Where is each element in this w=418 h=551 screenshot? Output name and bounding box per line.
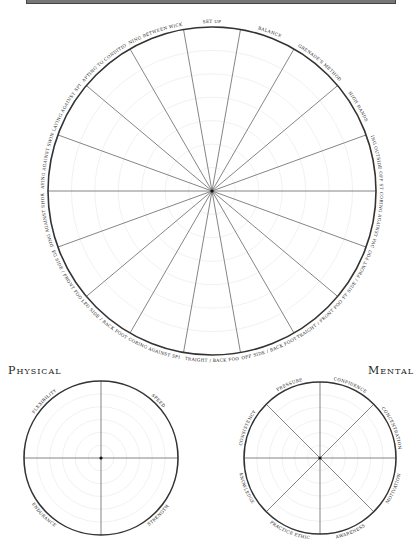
segment-label: PLAYING AGAINST SPIN [0, 0, 82, 132]
center-dot [99, 456, 102, 459]
center-dot [210, 189, 213, 192]
spoke [266, 404, 320, 458]
main-skills-wheel: SET UPBALANCEGRENADE'S METHODHIGH HANDSL… [0, 0, 384, 363]
segment-label: OFF SIDE / BACK FOOT [241, 336, 298, 361]
physical-title: Physical [8, 364, 62, 377]
spoke [212, 86, 338, 191]
spoke [266, 458, 320, 512]
segment-label: PRACTICE ETHIC [269, 520, 311, 541]
mental-title: Mental [368, 364, 414, 377]
segment-label: GRENADE'S METHOD [297, 43, 342, 82]
physical-wheel: SPEEDSTRENGTHENDURANCEFLEXIBILITY [18, 378, 184, 541]
segment-label: ADAPTING TO CONDITIONS [0, 0, 128, 84]
spoke [58, 135, 212, 191]
segment-label: STRENGTH [146, 503, 169, 526]
segment-label: LEG SIDE / FRONT FOOT [0, 0, 83, 301]
segment-label: ENDURANCE [31, 502, 57, 528]
spoke [212, 135, 366, 191]
spoke [212, 191, 366, 247]
spoke [58, 191, 212, 247]
segment-label: STRAIGHT / FRONT FOOT [0, 0, 344, 340]
spoke [86, 191, 212, 296]
spoke [212, 191, 338, 296]
segment-label: DEFENDING AGAINST SHORT BALL [0, 0, 54, 248]
wheel-diagram: SET UPBALANCEGRENADE'S METHODHIGH HANDSL… [0, 0, 418, 551]
spoke [86, 86, 212, 191]
segment-label: CONCENTRATION [381, 406, 403, 450]
segment-label: CONSISTENCY [238, 409, 257, 446]
mental-wheel: CONFIDENCECONCENTRATIONMOTIVATIONAWARENE… [238, 376, 403, 540]
center-dot [318, 456, 321, 459]
spoke [320, 404, 374, 458]
segment-label: PLAYING AGAINST SWING [0, 0, 55, 190]
segment-label: LEG SIDE / BACK FOOT [80, 298, 128, 339]
spoke [320, 458, 374, 512]
segment-label: FLEXIBILITY [31, 388, 58, 415]
segment-label: BALANCE [258, 26, 283, 39]
segment-label: CONFIDENCE [333, 376, 368, 394]
segment-label: SET UP [202, 19, 221, 24]
segment-label: RUNNING BETWEEN WICKETS [0, 0, 183, 46]
